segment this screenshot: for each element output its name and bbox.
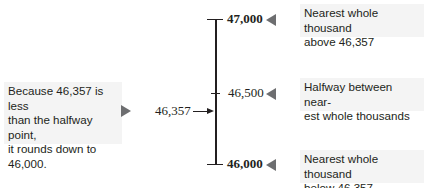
pointer-arrow-head-icon [207,108,214,114]
note-nearest-below: Nearest whole thousand below 46,357 [300,150,424,183]
note-line: it rounds down to [8,142,116,157]
note-line: Halfway between near- [304,80,418,109]
left-triangle-marker-icon [266,88,276,100]
note-line: 46,000. [8,157,116,172]
note-line: Because 46,357 is less [8,84,116,113]
note-line: Nearest whole thousand [304,152,418,181]
note-nearest-above: Nearest whole thousand above 46,357 [300,4,424,37]
note-line: est whole thousands [304,109,418,124]
label-47000: 47,000 [227,12,263,26]
note-line: above 46,357 [304,35,418,50]
note-line: Nearest whole thousand [304,6,418,35]
note-line: below 46,357 [304,181,418,188]
left-triangle-marker-icon [266,159,276,171]
number-line [215,19,217,165]
tick-46000 [207,164,223,165]
tick-46500 [211,93,220,94]
note-rounding-explanation: Because 46,357 is less than the halfway … [4,82,122,144]
left-triangle-marker-icon [266,14,276,26]
label-46500: 46,500 [228,86,264,100]
tick-47000 [207,19,223,20]
label-46000: 46,000 [227,157,263,171]
right-triangle-marker-icon [121,105,131,117]
note-line: than the halfway point, [8,113,116,142]
label-46357: 46,357 [155,104,191,118]
note-halfway: Halfway between near- est whole thousand… [300,78,424,111]
